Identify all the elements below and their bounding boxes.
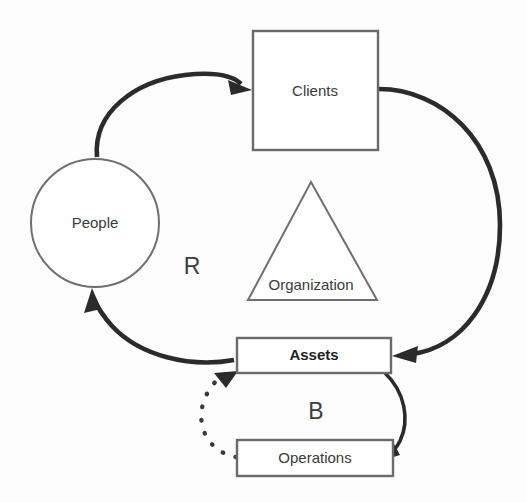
clients-to-assets-path: [379, 89, 500, 354]
assets-to-people-path: [94, 299, 234, 362]
link-clients-to-assets: [379, 89, 500, 363]
operations-to-assets-dotted-path: [201, 374, 236, 457]
link-people-to-clients: [97, 74, 252, 157]
loop-label-balancing: B: [308, 398, 323, 424]
clients-to-assets-arrowhead: [392, 346, 418, 363]
people-to-clients-path: [97, 74, 241, 157]
node-people[interactable]: People: [31, 159, 159, 287]
people-label: People: [72, 214, 119, 231]
node-clients[interactable]: Clients: [253, 31, 378, 150]
loop-label-reinforcing: R: [184, 253, 201, 279]
link-assets-to-people: [84, 288, 234, 362]
node-operations[interactable]: Operations: [237, 440, 393, 476]
clients-label: Clients: [292, 82, 338, 99]
assets-to-people-arrowhead: [84, 288, 101, 313]
assets-label: Assets: [289, 346, 338, 363]
organization-label: Organization: [268, 276, 353, 293]
node-assets[interactable]: Assets: [237, 338, 391, 373]
node-organization[interactable]: Organization: [248, 182, 377, 300]
link-operations-to-assets: [201, 371, 238, 457]
operations-label: Operations: [278, 449, 351, 466]
diagram-canvas: People Clients Organization Assets Opera…: [0, 0, 527, 503]
causal-loop-diagram: People Clients Organization Assets Opera…: [0, 0, 527, 503]
operations-to-assets-arrowhead: [214, 371, 238, 388]
